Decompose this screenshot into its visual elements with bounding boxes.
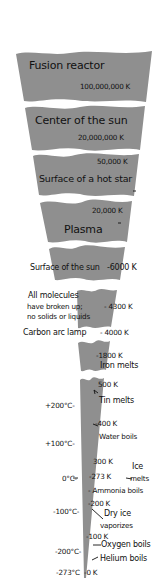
arrow-helium — [92, 557, 98, 560]
label-molecules-3: no solids or liquids — [27, 313, 90, 320]
label-helium-boils: Helium boils — [100, 555, 147, 563]
celsius-plus-100: +100°C- — [45, 440, 75, 447]
label-oxygen-boils: Oxygen boils — [101, 541, 151, 549]
value-fusion-reactor: 100,000,000 K — [80, 83, 130, 90]
value-200k: -200 K — [88, 500, 110, 507]
label-dry-ice: Dry ice — [104, 510, 131, 518]
band-center-sun — [25, 106, 145, 151]
value-hot-star: 50,000 K — [97, 158, 128, 165]
value-0k: -0 K — [84, 569, 97, 576]
value-plasma: 20,000 K — [92, 207, 123, 214]
label-ammonia-boils: - Ammonia boils — [88, 487, 143, 494]
label-surface-sun: Surface of the sun — [30, 264, 100, 272]
temperature-diagram: Fusion reactor 100,000,000 K Center of t… — [0, 0, 162, 578]
celsius-minus-273: -273°C — [56, 569, 80, 576]
value-center-sun: 20,000,000 K — [78, 134, 124, 141]
label-hot-star: Surface of a hot star — [39, 174, 132, 184]
celsius-minus-100: -100°C- — [53, 508, 79, 515]
label-plasma: Plasma — [64, 224, 102, 235]
value-surface-sun: -6000 K — [107, 264, 137, 272]
label-molecules-2: have broken up; — [27, 303, 82, 310]
value-iron: -1800 K — [96, 352, 122, 359]
label-vaporizes: vaporizes — [100, 522, 133, 529]
value-molecules: - 4300 K — [104, 303, 133, 310]
label-molecules-1: All molecules — [28, 292, 78, 300]
celsius-minus-200: -200°C- — [55, 548, 81, 555]
value-carbon-arc: - 4000 K — [100, 329, 129, 336]
value-400k: -400 K — [95, 420, 117, 427]
label-carbon-arc: Carbon arc lamp — [23, 329, 86, 337]
label-melts: melts — [130, 475, 149, 482]
label-fusion-reactor: Fusion reactor — [29, 60, 104, 71]
value-300k: 300 K — [93, 458, 113, 465]
label-tin-melts: Tin melts — [99, 397, 134, 405]
value-273k: -273 K — [89, 473, 111, 480]
label-iron-melts: Iron melts — [100, 362, 138, 370]
arrow-dry-ice — [92, 509, 103, 519]
value-tin: 500 K — [98, 381, 118, 388]
label-water-boils: Water boils — [99, 433, 137, 440]
celsius-zero: 0°C- — [62, 475, 77, 482]
label-center-sun: Center of the sun — [35, 115, 127, 126]
label-ice: Ice — [132, 463, 143, 471]
celsius-plus-200: +200°C- — [45, 402, 75, 409]
